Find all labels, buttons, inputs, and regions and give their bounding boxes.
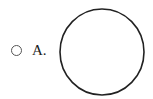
option-label-a: A.: [32, 41, 47, 59]
circle-figure: [59, 8, 145, 96]
answer-option-a[interactable]: A.: [0, 0, 153, 99]
radio-button-a[interactable]: [11, 45, 22, 56]
circle-shape: [60, 9, 144, 95]
